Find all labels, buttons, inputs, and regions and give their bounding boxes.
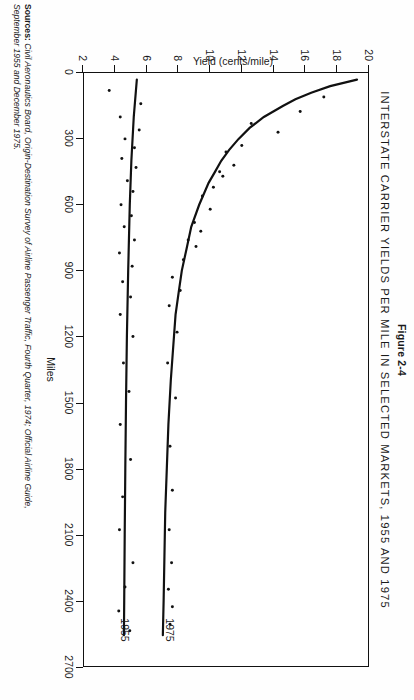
x-tick: [76, 336, 83, 337]
y-tick-label: 2: [77, 55, 89, 61]
series-curve-1975: [163, 80, 357, 636]
data-point: [129, 296, 132, 299]
y-tick: [177, 65, 178, 72]
data-point: [117, 610, 120, 613]
sources-label: Sources:: [23, 4, 33, 41]
data-point: [121, 280, 124, 283]
y-tick: [82, 65, 83, 72]
x-tick: [76, 138, 83, 139]
y-tick: [114, 65, 115, 72]
data-point: [201, 194, 204, 197]
y-tick-label: 4: [109, 55, 121, 61]
series-curve-1955: [124, 80, 137, 636]
data-point: [118, 252, 121, 255]
sources-line-1: Civil Aeronautics Board, Origin-Destinat…: [23, 43, 33, 509]
data-point: [120, 203, 123, 206]
y-tick: [336, 65, 337, 72]
y-tick-label: 10: [204, 49, 216, 61]
data-point: [232, 164, 235, 167]
x-tick-label: 300: [63, 129, 75, 147]
y-tick-label: 8: [172, 55, 184, 61]
data-point: [133, 238, 136, 241]
y-tick-label: 18: [331, 49, 343, 61]
y-tick-label: 12: [236, 49, 248, 61]
y-tick: [368, 65, 369, 72]
data-point: [322, 96, 325, 99]
data-point: [171, 276, 174, 279]
x-tick-label: 1500: [63, 391, 75, 414]
data-point: [299, 110, 302, 113]
x-tick-label: 900: [63, 262, 75, 280]
x-tick: [76, 469, 83, 470]
data-point: [209, 208, 212, 211]
sources-note: Sources: Civil Aeronautics Board, Origin…: [10, 4, 33, 698]
data-point: [131, 561, 134, 564]
data-point: [129, 458, 132, 461]
data-point: [131, 335, 134, 338]
data-point: [171, 489, 174, 492]
y-tick: [241, 65, 242, 72]
data-point: [225, 151, 228, 154]
chart-canvas: [84, 73, 368, 666]
data-point: [139, 102, 142, 105]
data-point: [108, 89, 111, 92]
y-tick-label: 6: [141, 55, 153, 61]
x-tick-label: 0: [63, 69, 75, 75]
data-point: [166, 361, 169, 364]
figure-page: Figure 2-4 INTERSTATE CARRIER YIELDS PER…: [0, 0, 414, 700]
data-point: [168, 528, 171, 531]
data-point: [187, 238, 190, 241]
x-tick-label: 1800: [63, 457, 75, 480]
y-tick: [304, 65, 305, 72]
y-tick-label: 14: [268, 49, 280, 61]
x-tick-label: 2400: [63, 589, 75, 612]
data-point: [218, 170, 221, 173]
x-tick-label: 600: [63, 195, 75, 213]
x-tick: [76, 204, 83, 205]
x-axis-title: Miles: [45, 72, 57, 667]
data-point: [131, 190, 134, 193]
data-point: [121, 495, 124, 498]
x-tick-label: 2100: [63, 523, 75, 546]
data-point: [127, 390, 130, 393]
x-tick: [76, 403, 83, 404]
data-point: [176, 331, 179, 334]
data-point: [122, 361, 125, 364]
data-point: [133, 146, 136, 149]
data-point: [167, 588, 170, 591]
plot-area: 1975 1955: [83, 72, 369, 667]
series-label-1955: 1955: [119, 618, 131, 641]
data-point: [168, 304, 171, 307]
x-tick: [76, 270, 83, 271]
data-point: [123, 225, 126, 228]
x-tick: [76, 667, 83, 668]
data-point: [179, 289, 182, 292]
data-point: [212, 186, 215, 189]
data-point: [240, 144, 243, 147]
figure-title: INTERSTATE CARRIER YIELDS PER MILE IN SE…: [379, 0, 391, 700]
data-point: [171, 605, 174, 608]
x-tick: [76, 535, 83, 536]
data-point: [193, 221, 196, 224]
data-point: [170, 561, 173, 564]
y-tick: [146, 65, 147, 72]
x-tick-label: 1200: [63, 325, 75, 348]
y-tick: [209, 65, 210, 72]
data-point: [221, 175, 224, 178]
figure-number: Figure 2-4: [396, 0, 408, 700]
y-tick-label: 16: [299, 49, 311, 61]
x-tick: [76, 72, 83, 73]
data-point: [124, 137, 127, 140]
data-point: [174, 397, 177, 400]
x-tick: [76, 601, 83, 602]
data-point: [130, 214, 133, 217]
data-point: [119, 115, 122, 118]
y-tick: [273, 65, 274, 72]
data-point: [135, 166, 138, 169]
data-point: [138, 129, 141, 132]
data-point: [199, 230, 202, 233]
data-point: [119, 423, 122, 426]
data-point: [131, 265, 134, 268]
data-point: [250, 122, 253, 125]
data-point: [126, 179, 129, 182]
